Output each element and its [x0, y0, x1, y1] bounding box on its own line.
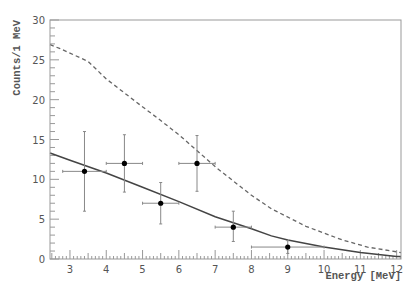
data-point — [106, 135, 142, 192]
x-tick-label: 6 — [176, 264, 182, 275]
x-tick-label: 5 — [139, 264, 145, 275]
plot-frame — [50, 20, 401, 259]
y-axis-title: Counts/1 MeV — [11, 19, 23, 95]
dashed-curve — [50, 45, 401, 253]
y-tick-label: 10 — [32, 174, 45, 185]
axis-ticks — [50, 20, 400, 259]
x-axis-title: Energy [MeV] — [325, 270, 401, 282]
chart: 3456789101112051015202530 Energy [MeV] C… — [0, 0, 415, 298]
y-tick-label: 25 — [32, 55, 45, 66]
x-tick-label: 9 — [285, 264, 291, 275]
x-tick-label: 4 — [103, 264, 109, 275]
data-points — [63, 132, 324, 254]
data-point — [179, 136, 215, 192]
y-tick-label: 5 — [39, 214, 45, 225]
curves — [50, 45, 401, 257]
y-tick-label: 20 — [32, 95, 45, 106]
data-point — [63, 132, 107, 212]
y-tick-label: 30 — [32, 15, 45, 26]
x-tick-label: 7 — [212, 264, 218, 275]
y-tick-label: 15 — [32, 135, 45, 146]
tick-labels: 3456789101112051015202530 — [32, 15, 403, 275]
y-tick-label: 0 — [39, 254, 45, 265]
x-tick-label: 3 — [67, 264, 73, 275]
data-point — [251, 241, 324, 254]
x-tick-label: 8 — [248, 264, 254, 275]
